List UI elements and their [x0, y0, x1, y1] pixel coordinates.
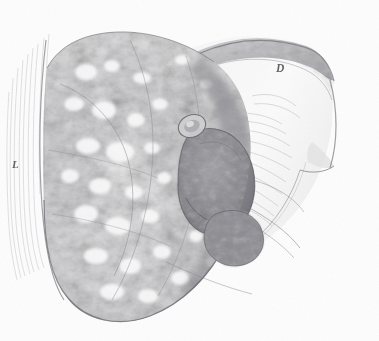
figure-plate: Fig. 364. — [0, 0, 379, 341]
anatomical-illustration — [0, 0, 379, 341]
reference-label-D: D — [276, 62, 284, 74]
reference-label-L: L — [12, 158, 19, 170]
plate-grain — [0, 0, 379, 341]
engraving-canvas — [0, 0, 379, 341]
